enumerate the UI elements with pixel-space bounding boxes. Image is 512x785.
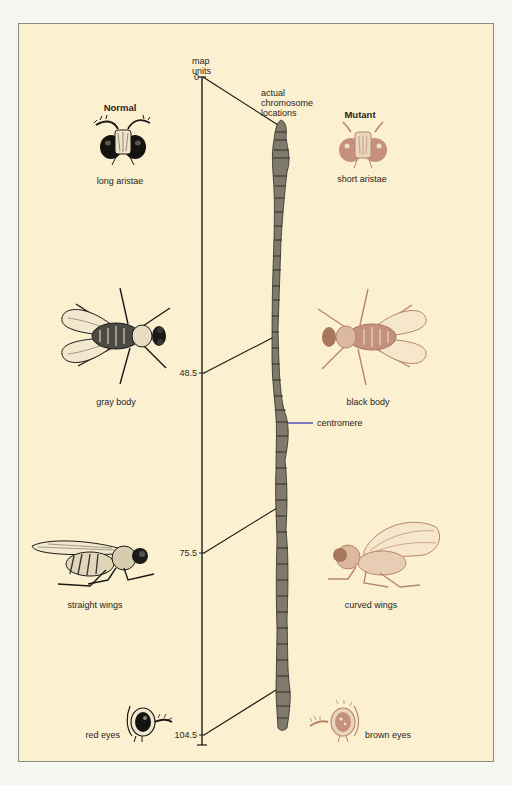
mutant-fly-head-icon: [333, 120, 393, 170]
chromosome: [272, 120, 290, 730]
header-normal: Normal: [104, 103, 137, 113]
normal-fly-head-icon: [88, 113, 158, 168]
centromere-label: centromere: [317, 418, 363, 428]
mutant-trait-2: curved wings: [345, 600, 398, 610]
mutant-fly-curved-wings-icon: [320, 517, 445, 592]
normal-trait-0: long aristae: [97, 176, 144, 186]
map-value-104-5: 104.5: [174, 730, 197, 740]
chromosome-label-line1: actual: [261, 88, 285, 98]
chromosome-label-line3: locations: [261, 108, 297, 118]
map-value-48-5: 48.5: [179, 368, 197, 378]
normal-trait-2: straight wings: [67, 600, 122, 610]
mutant-trait-3: brown eyes: [365, 730, 411, 740]
normal-eye-red-icon: [124, 702, 174, 744]
mutant-fly-black-body-icon: [310, 285, 430, 390]
chromosome-label-line2: chromosome: [261, 98, 313, 108]
normal-fly-gray-body-icon: [58, 284, 178, 389]
map-value-0: 0: [194, 72, 199, 82]
axis-title-line1: map: [192, 56, 210, 66]
mutant-trait-1: black body: [346, 397, 389, 407]
mutant-eye-brown-icon: [308, 700, 362, 744]
genetic-map-lines: [0, 0, 512, 785]
normal-trait-1: gray body: [96, 397, 136, 407]
map-value-75-5: 75.5: [179, 548, 197, 558]
header-mutant: Mutant: [344, 110, 375, 120]
normal-trait-3: red eyes: [85, 730, 120, 740]
mutant-trait-0: short aristae: [337, 174, 387, 184]
normal-fly-straight-wings-icon: [28, 532, 158, 590]
